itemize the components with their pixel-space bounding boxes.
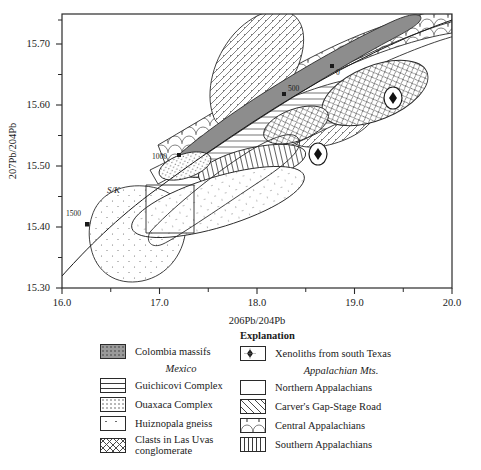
legend: Colombia massifs Mexico Guichicovi Compl…	[0, 330, 481, 470]
y-tick-label-2: 15.50	[26, 160, 50, 171]
x-tick-major	[62, 288, 452, 294]
legend-label-guichicovi-complex: Guichicovi Complex	[135, 380, 223, 392]
swatch-diagonal-hatch	[240, 399, 266, 414]
legend-subheading-appalachian-row: Appalachian Mts.	[240, 363, 416, 378]
y-axis-title: 207Pb/204Pb	[7, 123, 18, 180]
legend-item-xenoliths[interactable]: Xenoliths from south Texas	[240, 344, 416, 363]
legend-label-carvers-gap-stage-road: Carver's Gap-Stage Road	[275, 401, 381, 413]
legend-label-colombia-massifs: Colombia massifs	[135, 346, 211, 358]
xenolith-marker-icon	[241, 347, 265, 360]
x-tick-label-4: 20.0	[443, 297, 461, 308]
figure-root: S/K 1500 1000 500 0 15.30 15.40	[0, 0, 481, 470]
legend-subheading-mexico-row: Mexico	[100, 361, 236, 376]
age-marker-1000	[177, 153, 181, 157]
age-marker-500	[282, 92, 286, 96]
swatch-blank	[240, 380, 266, 395]
legend-item-southern-appalachians[interactable]: Southern Appalachians	[240, 435, 416, 454]
x-tick-label-0: 16.0	[53, 297, 71, 308]
y-tick-label-4: 15.70	[26, 38, 50, 49]
legend-item-ouaxaca-complex[interactable]: Ouaxaca Complex	[100, 395, 236, 414]
legend-label-clasts-las-uvas: Clasts in Las Uvas	[135, 434, 213, 445]
x-tick-label-3: 19.0	[345, 297, 363, 308]
y-tick-label-1: 15.40	[26, 221, 50, 232]
legend-right-column: Explanation Xenoliths from south Texas A…	[240, 330, 416, 454]
swatch-scallop	[240, 418, 266, 433]
age-label-1000: 1000	[152, 152, 167, 161]
swatch-vertical-lines	[240, 437, 266, 452]
legend-label-clasts-las-uvas-line2: conglomerate	[135, 445, 192, 456]
y-tick-label-0: 15.30	[26, 282, 50, 293]
legend-label-northern-appalachians: Northern Appalachians	[275, 382, 372, 394]
legend-label-central-appalachians: Central Appalachians	[275, 420, 365, 432]
age-label-0: 0	[336, 68, 340, 77]
legend-item-colombia-massifs[interactable]: Colombia massifs	[100, 342, 236, 361]
x-axis-title: 206Pb/204Pb	[229, 315, 286, 326]
legend-subheading-mexico: Mexico	[126, 363, 236, 375]
xenolith-point-1	[384, 87, 402, 109]
legend-heading-explanation: Explanation	[240, 330, 416, 341]
legend-item-carvers-gap-stage-road[interactable]: Carver's Gap-Stage Road	[240, 397, 416, 416]
legend-item-guichicovi-complex[interactable]: Guichicovi Complex	[100, 376, 236, 395]
age-marker-1500	[85, 222, 90, 227]
swatch-dense-dots	[100, 397, 126, 412]
legend-label-xenoliths: Xenoliths from south Texas	[275, 348, 391, 360]
legend-item-northern-appalachians[interactable]: Northern Appalachians	[240, 378, 416, 397]
swatch-cross-hatch	[100, 438, 126, 453]
x-tick-label-1: 17.0	[150, 297, 168, 308]
isotope-plot: S/K 1500 1000 500 0 15.30 15.40	[0, 0, 481, 330]
legend-label-ouaxaca-complex: Ouaxaca Complex	[135, 399, 213, 411]
age-label-1500: 1500	[66, 209, 81, 218]
sk-curve-label: S/K	[107, 185, 121, 195]
legend-left-column: Colombia massifs Mexico Guichicovi Compl…	[100, 342, 236, 457]
swatch-sparse-dots	[100, 416, 126, 431]
swatch-xenolith-marker	[240, 346, 266, 361]
age-label-500: 500	[288, 84, 300, 93]
xenolith-point-2	[309, 143, 327, 165]
y-axis: 15.30 15.40 15.50 15.60 15.70 207Pb/204P…	[7, 20, 62, 293]
x-tick-label-2: 18.0	[248, 297, 266, 308]
legend-subheading-appalachian-mts: Appalachian Mts.	[266, 365, 416, 377]
legend-item-huiznopala-gneiss[interactable]: Huiznopala gneiss	[100, 414, 236, 433]
y-tick-label-3: 15.60	[26, 99, 50, 110]
age-marker-0	[330, 64, 334, 68]
legend-label-huiznopala-gneiss: Huiznopala gneiss	[135, 418, 212, 430]
legend-label-clasts-las-uvas-group: Clasts in Las Uvas conglomerate	[135, 434, 213, 456]
x-axis: 16.0 17.0 18.0 19.0 20.0 206Pb/204Pb	[53, 288, 461, 326]
swatch-horizontal-lines	[100, 378, 126, 393]
swatch-solid-gray	[100, 344, 126, 359]
legend-item-clasts-las-uvas[interactable]: Clasts in Las Uvas conglomerate	[100, 433, 236, 457]
scallop-pattern-icon	[241, 419, 265, 432]
y-tick-major	[56, 44, 62, 288]
legend-label-southern-appalachians: Southern Appalachians	[275, 439, 372, 451]
legend-item-central-appalachians[interactable]: Central Appalachians	[240, 416, 416, 435]
